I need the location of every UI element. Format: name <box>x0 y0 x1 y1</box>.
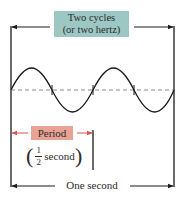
top-label-line1: Two cycles <box>54 12 129 24</box>
period-value: ( 1 2 second ) <box>26 143 82 169</box>
period-unit: second <box>44 150 75 162</box>
one-second-label: One second <box>62 178 122 192</box>
two-cycles-label: Two cycles (or two hertz) <box>54 11 129 37</box>
fraction: 1 2 <box>35 146 42 167</box>
fraction-denominator: 2 <box>37 158 42 167</box>
period-label: Period <box>31 126 73 140</box>
top-label-line2: (or two hertz) <box>54 24 129 36</box>
fraction-numerator: 1 <box>37 146 42 155</box>
open-paren: ( <box>26 143 33 169</box>
close-paren: ) <box>75 143 82 169</box>
